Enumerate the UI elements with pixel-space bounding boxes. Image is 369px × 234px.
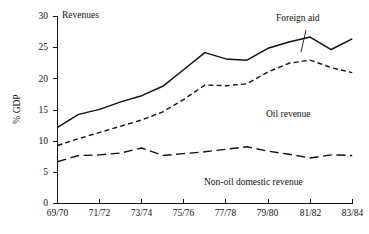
x-tick-label-7778: 77/78 — [203, 209, 248, 219]
y-tick-label-5: 5 — [22, 168, 48, 178]
x-tick-label-7172: 71/72 — [77, 209, 122, 219]
x-tick-label-7374: 73/74 — [119, 209, 164, 219]
series-label-oil-revenue: Oil revenue — [266, 110, 311, 120]
chart-plot-area — [0, 0, 369, 234]
chart-title: Revenues — [62, 10, 99, 20]
y-tick-label-20: 20 — [22, 75, 48, 85]
series-label-foreign-aid: Foreign aid — [276, 14, 320, 24]
x-tick-label-8384: 83/84 — [330, 209, 369, 219]
x-tick-label-6970: 69/70 — [35, 209, 80, 219]
series-oil-revenue — [58, 60, 353, 145]
y-tick-label-30: 30 — [22, 12, 48, 22]
y-tick-label-10: 10 — [22, 137, 48, 147]
x-tick-label-7980: 79/80 — [245, 209, 290, 219]
x-axis-ticks — [58, 199, 353, 204]
x-tick-label-7576: 75/76 — [161, 209, 206, 219]
y-tick-label-0: 0 — [22, 199, 48, 209]
series-label-non-oil-domestic-revenue: Non-oil domestic revenue — [204, 178, 303, 188]
series-non-oil-domestic-revenue — [58, 147, 353, 162]
revenues-line-chart: Revenues % GDP 0 5 10 15 20 25 30 69/70 … — [0, 0, 369, 234]
y-tick-label-15: 15 — [22, 106, 48, 116]
foreign-aid-leader-line — [301, 30, 306, 52]
y-axis-ticks — [53, 17, 58, 204]
x-tick-label-8182: 81/82 — [288, 209, 333, 219]
y-tick-label-25: 25 — [22, 43, 48, 53]
y-axis-title: % GDP — [12, 79, 22, 139]
